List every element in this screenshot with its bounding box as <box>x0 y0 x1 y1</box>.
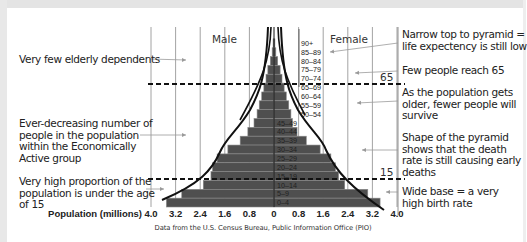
male-bar <box>213 163 275 172</box>
annotation-line: within the Economically <box>19 141 152 153</box>
age-label: 45–49 <box>277 119 297 128</box>
age-label: 5–9 <box>277 189 289 198</box>
line-65-label: 65 <box>380 71 393 83</box>
annotation-line: Few people reach 65 <box>402 65 504 77</box>
annotation-line: rate is still causing early <box>402 155 521 167</box>
male-bar <box>259 101 274 110</box>
arrowhead-icon <box>355 71 359 75</box>
line-15-label: 15 <box>380 166 393 178</box>
right-annotation: Shape of the pyramidshows that the death… <box>402 132 521 178</box>
left-annotation: Very high proportion of thepopulation is… <box>19 176 155 211</box>
male-bar <box>217 154 274 163</box>
arrowhead-icon <box>182 133 186 137</box>
age-label: 20–24 <box>277 163 297 172</box>
age-label: 55–59 <box>301 101 321 110</box>
arrowhead-icon <box>362 148 366 152</box>
age-label: 30–34 <box>277 145 297 154</box>
arrowhead-icon <box>182 58 186 62</box>
x-tick-label: 0 <box>271 208 276 219</box>
right-annotation: As the population getsolder, fewer peopl… <box>402 87 516 122</box>
age-label: 90+ <box>301 39 313 48</box>
arrowhead-icon <box>160 187 164 191</box>
female-bar <box>274 101 289 110</box>
male-bar <box>182 189 274 198</box>
age-label: 35–39 <box>277 136 297 145</box>
female-bar <box>274 92 286 101</box>
male-bar <box>228 145 274 154</box>
annotation-line: Active group <box>19 153 152 165</box>
male-bar <box>203 180 274 189</box>
annotation-line: Shape of the pyramid <box>402 132 521 144</box>
x-tick-label: 0.8 <box>243 208 256 219</box>
male-bar <box>248 127 274 136</box>
annotation-line: survive <box>402 110 516 122</box>
male-bar <box>254 119 274 128</box>
male-bar <box>270 57 274 66</box>
age-label: 60–64 <box>301 92 321 101</box>
right-annotation: Narrow top to pyramid =life expectency i… <box>402 29 527 52</box>
male-bar <box>266 74 274 83</box>
male-bar <box>257 110 274 119</box>
age-label: 70–74 <box>301 74 321 83</box>
x-tick-label: 3.2 <box>169 208 182 219</box>
female-label: Female <box>330 33 368 45</box>
x-tick-label: 2.4 <box>341 208 355 219</box>
x-tick-label: 3.2 <box>366 208 379 219</box>
annotation-arrow-line <box>357 101 398 103</box>
x-tick-label: 4.0 <box>390 208 403 219</box>
annotation-line: As the population gets <box>402 87 516 99</box>
right-annotation: Wide base = a veryhigh birth rate <box>402 186 499 209</box>
annotation-line: deaths <box>402 167 521 179</box>
annotation-line: of 15 <box>19 199 155 211</box>
left-annotation: Very few elderly dependents <box>19 54 160 66</box>
male-bar <box>240 136 274 145</box>
female-bar <box>274 65 280 74</box>
age-label: 75–79 <box>301 65 321 74</box>
arrowhead-icon <box>357 101 361 105</box>
x-tick-label: 2.4 <box>194 208 208 219</box>
annotation-line: high birth rate <box>402 198 499 210</box>
arrowhead-icon <box>330 49 334 53</box>
female-bar <box>274 74 282 83</box>
annotation-line: Ever-decreasing number of <box>19 118 152 130</box>
female-bar <box>274 110 291 119</box>
age-label: 10–14 <box>277 181 297 190</box>
annotation-line: life expectency is still low <box>402 41 527 53</box>
age-label: 0–4 <box>277 198 289 207</box>
x-axis-ticks: 4.03.22.41.60.800.81.62.43.24.0 <box>144 208 403 219</box>
x-tick-label: 0.8 <box>292 208 305 219</box>
right-annotation: Few people reach 65 <box>402 65 504 77</box>
annotation-line: Very few elderly dependents <box>19 54 160 66</box>
x-tick-label: 1.6 <box>317 208 330 219</box>
male-bar <box>268 65 274 74</box>
left-annotation: Ever-decreasing number ofpeople in the p… <box>19 118 152 164</box>
age-label: 80–84 <box>301 57 321 66</box>
female-bar <box>274 57 278 66</box>
x-tick-label: 1.6 <box>218 208 231 219</box>
male-bar <box>262 92 274 101</box>
female-bar <box>274 198 380 207</box>
age-label: 40–44 <box>277 127 297 136</box>
age-label: 25–29 <box>277 154 297 163</box>
male-bar <box>166 198 274 207</box>
source-caption: Data from the U.S. Census Bureau, Public… <box>0 224 526 232</box>
male-label: Male <box>212 33 237 45</box>
annotation-line: Wide base = a very <box>402 186 499 198</box>
annotation-line: Very high proportion of the <box>19 176 155 188</box>
annotation-line: Narrow top to pyramid = <box>402 29 527 41</box>
arrowhead-icon <box>386 190 390 194</box>
age-label: 85–89 <box>301 48 321 57</box>
